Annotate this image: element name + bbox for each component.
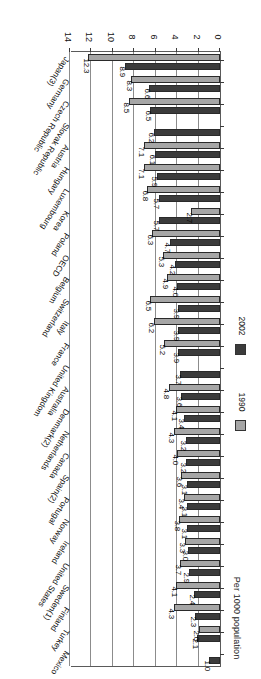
axis-tick-label: 14 xyxy=(63,28,73,46)
bar-1990 xyxy=(153,230,221,237)
bar-value-label-2002: 3.2 xyxy=(179,441,188,452)
bar-group: 3.44.1 xyxy=(71,402,220,424)
bar-value-label-1990: 4.0 xyxy=(170,455,179,466)
bar-value-label-2002: 3.9 xyxy=(171,331,180,342)
legend-swatch-1990 xyxy=(235,420,246,431)
category-tick xyxy=(220,104,224,105)
bar-value-label-2002: 3.6 xyxy=(174,397,183,408)
bar-value-label-2002: 6.6 xyxy=(142,89,151,100)
bar-group: 4.04.9 xyxy=(71,270,220,292)
bar-2002 xyxy=(180,371,220,378)
bar-value-label-1990: 5.2 xyxy=(157,345,166,356)
axis-tick-label: 10 xyxy=(106,28,116,46)
bar-2002 xyxy=(189,569,220,576)
bar-2002 xyxy=(195,613,220,620)
bar-group: 3.7 xyxy=(71,358,220,380)
bar-group: 2.34.3 xyxy=(71,600,220,622)
category-tick xyxy=(220,192,224,193)
legend-label-2002: 2002 xyxy=(237,309,247,343)
bar-2002 xyxy=(125,63,220,70)
legend-item-2002: 2002 xyxy=(224,279,250,355)
bar-value-label-1990: 3.6 xyxy=(174,477,183,488)
bar-value-label-1990: 12.3 xyxy=(81,59,90,74)
bar-value-label-1990: 7.1 xyxy=(137,169,146,180)
bar-value-label-1990: 4.3 xyxy=(167,609,176,620)
bar-value-label-1990: 4.1 xyxy=(169,587,178,598)
bar-value-label-2002: 2.3 xyxy=(188,617,197,628)
bar-2002 xyxy=(155,151,220,158)
category-tick xyxy=(220,390,224,391)
bar-value-label-1990: 4.1 xyxy=(169,411,178,422)
legend-swatch-2002 xyxy=(235,344,246,355)
axis-tick-label: 8 xyxy=(127,28,137,46)
bar-1990 xyxy=(199,626,220,633)
bar-2002 xyxy=(186,437,220,444)
bar-group: 3.24.3 xyxy=(71,424,220,446)
bar-value-label-1990: 3.7 xyxy=(173,565,182,576)
bar-group: 3.95.2 xyxy=(71,336,220,358)
bar-group: 5.97.1 xyxy=(71,160,220,182)
bar-1990 xyxy=(163,252,220,259)
category-tick xyxy=(220,236,224,237)
category-tick xyxy=(220,478,224,479)
category-tick xyxy=(220,346,224,347)
category-label: Mexico xyxy=(49,649,71,676)
bar-value-label-1990: 6.8 xyxy=(140,191,149,202)
bar-value-label-2002: 6.5 xyxy=(143,111,152,122)
axis-tick-label: 0 xyxy=(213,28,223,46)
axis-tick-label: 12 xyxy=(84,28,94,46)
bar-1990 xyxy=(191,208,220,215)
category-tick xyxy=(220,60,224,61)
category-tick xyxy=(220,632,224,633)
category-tick xyxy=(220,148,224,149)
category-tick xyxy=(220,456,224,457)
axis-tick-label: 6 xyxy=(149,28,159,46)
bar-group: 4.76.3 xyxy=(71,226,220,248)
category-tick xyxy=(220,522,224,523)
category-tick xyxy=(220,434,224,435)
chart-legend: 1990 2002 xyxy=(224,279,250,431)
bar-group: 2.44.1 xyxy=(71,578,220,600)
bar-value-label-1990: 8.5 xyxy=(122,103,131,114)
bar-value-label-1990: 6.5 xyxy=(143,301,152,312)
bar-value-label-2002: 5.9 xyxy=(150,177,159,188)
bar-2002 xyxy=(181,393,220,400)
bar-value-label-1990: 3.3 xyxy=(178,543,187,554)
bar-2002 xyxy=(149,85,220,92)
bar-2002 xyxy=(159,195,220,202)
bar-group: 3.64.8 xyxy=(71,380,220,402)
legend-label-1990: 1990 xyxy=(237,385,247,419)
plot-area: 024681012141.02.12.02.34.32.44.12.93.73.… xyxy=(71,51,221,667)
axis-tick-label: 2 xyxy=(192,28,202,46)
bar-1990 xyxy=(154,318,220,325)
bar-value-label-1990: 7.1 xyxy=(137,147,146,158)
bar-value-label-2002: 3.9 xyxy=(171,309,180,320)
axis-tick-label: 4 xyxy=(170,28,180,46)
bar-value-label-1990: 2.0 xyxy=(192,631,201,642)
bar-1990 xyxy=(185,538,220,545)
gridline xyxy=(69,52,70,666)
chart-figure: Per 1000 population 1990 2002 0246810121… xyxy=(0,0,261,679)
bar-2002 xyxy=(178,349,220,356)
bar-value-label-2002: 2.9 xyxy=(182,573,191,584)
axis-tick xyxy=(69,48,70,52)
rotated-figure-container: Per 1000 population 1990 2002 0246810121… xyxy=(0,0,261,679)
bar-group: 6.17.1 xyxy=(71,138,220,160)
category-label: Poland xyxy=(49,231,70,258)
bar-value-label-1990: 4.3 xyxy=(167,433,176,444)
bar-1990 xyxy=(150,296,220,303)
bar-value-label-2002: 6.2 xyxy=(147,133,156,144)
bar-2002 xyxy=(184,415,220,422)
category-tick xyxy=(220,82,224,83)
category-tick xyxy=(220,654,224,655)
bar-value-label-1990: 2.7 xyxy=(184,213,193,224)
value-axis-title: Per 1000 population xyxy=(232,558,242,678)
bar-value-label-2002: 6.1 xyxy=(148,155,157,166)
bar-2002 xyxy=(170,239,220,246)
bar-2002 xyxy=(186,459,220,466)
bar-value-label-1990: 3.8 xyxy=(172,521,181,532)
bar-1990 xyxy=(88,54,220,61)
category-tick xyxy=(220,412,224,413)
category-tick xyxy=(220,170,224,171)
bar-group: 3.13.6 xyxy=(71,468,220,490)
